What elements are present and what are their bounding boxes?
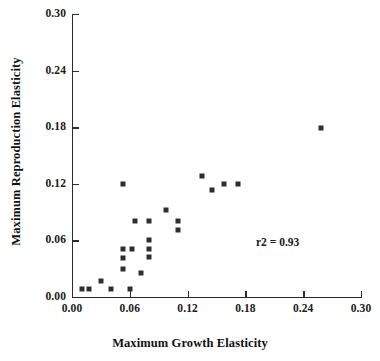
data-point [127,287,132,292]
data-point [147,218,152,223]
x-tick-label: 0.12 [168,302,208,314]
data-point [98,278,103,283]
x-tick-label: 0.24 [283,302,323,314]
x-tick-label: 0.06 [110,302,150,314]
scatter-plot-figure: 0.000.060.120.180.240.30 0.000.060.120.1… [0,0,380,361]
plot-area [72,14,361,297]
y-tick-label: 0.30 [30,7,66,19]
data-point [139,271,144,276]
data-point [121,246,126,251]
data-point [79,287,84,292]
x-tick-label: 0.30 [341,302,380,314]
data-point [87,287,92,292]
y-axis-title: Maximum Reproduction Elasticity [9,32,24,272]
data-point [175,218,180,223]
data-point [132,218,137,223]
y-tick-label: 0.12 [30,177,66,189]
r2-annotation: r2 = 0.93 [256,236,299,248]
data-point [129,246,134,251]
data-point [200,174,205,179]
data-point [318,126,323,131]
y-tick-label: 0.06 [30,233,66,245]
data-point [147,246,152,251]
data-point [175,228,180,233]
y-tick-mark [73,297,79,298]
x-tick-label: 0.00 [52,302,92,314]
data-point [222,181,227,186]
data-point [121,266,126,271]
x-axis-title: Maximum Growth Elasticity [0,336,380,351]
y-tick-label: 0.24 [30,64,66,76]
x-tick-label: 0.18 [225,302,265,314]
data-point [209,188,214,193]
data-point [164,208,169,213]
data-point [121,256,126,261]
data-point [121,181,126,186]
y-tick-label: 0.18 [30,120,66,132]
data-point [108,287,113,292]
data-point [235,181,240,186]
y-tick-label: 0.00 [30,290,66,302]
data-point [147,238,152,243]
x-tick-mark [361,291,362,297]
data-point [147,255,152,260]
